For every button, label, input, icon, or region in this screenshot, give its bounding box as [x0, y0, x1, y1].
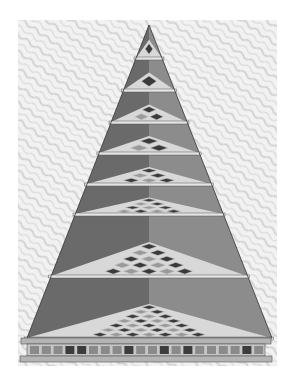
pyramid-artwork [0, 0, 290, 383]
pyramid-engraving [0, 0, 290, 383]
